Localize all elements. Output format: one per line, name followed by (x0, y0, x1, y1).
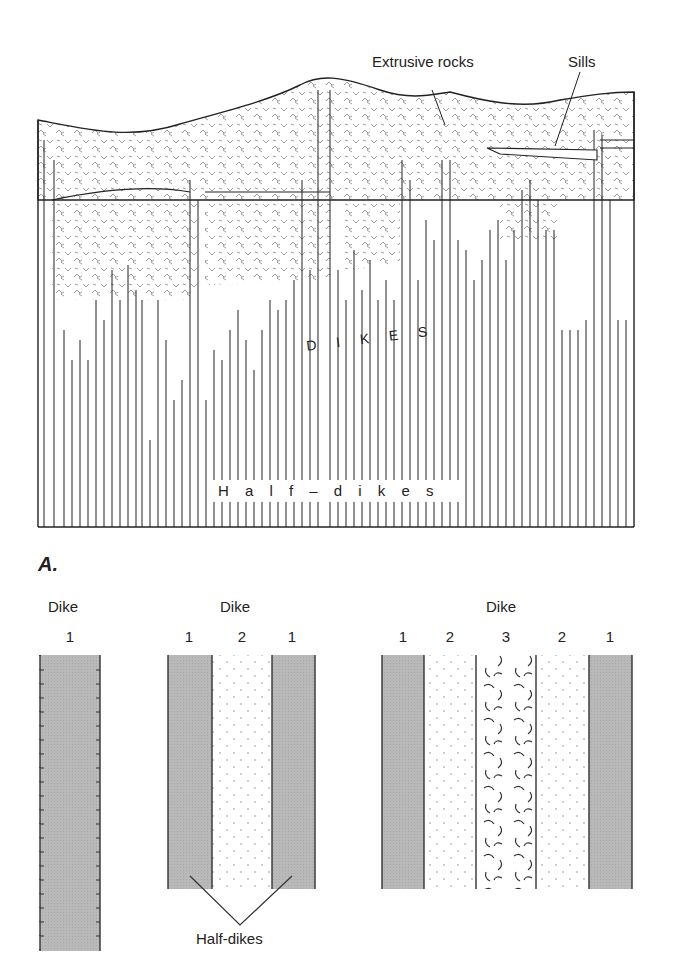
half-dikes-top-label: H a l f – d i k e s (218, 482, 440, 499)
dike-group-3-title: Dike (486, 598, 516, 615)
dike-group-2-num-2: 2 (238, 628, 246, 645)
dike-group-2-num-3: 1 (288, 628, 296, 645)
dike-group-1-num-1: 1 (66, 628, 74, 645)
dike-group-3-num-1: 1 (399, 628, 407, 645)
dike-group-2-num-1: 1 (185, 628, 193, 645)
extrusive-layer (38, 78, 634, 200)
sills-label: Sills (568, 53, 596, 70)
dike-group-3-num-4: 2 (558, 628, 566, 645)
dike-group-3-num-5: 1 (606, 628, 614, 645)
sheeted-dike-block-diagram (0, 0, 674, 954)
dike-group-3-num-2: 2 (446, 628, 454, 645)
dike-sections (40, 655, 632, 951)
dike-group-2-title: Dike (220, 598, 250, 615)
dike-group-1-title: Dike (48, 598, 78, 615)
half-dikes-callout: Half-dikes (196, 930, 263, 947)
extrusive-rocks-label: Extrusive rocks (372, 53, 474, 70)
panel-label: A. (38, 553, 58, 576)
dike-group-3-num-3: 3 (502, 628, 510, 645)
